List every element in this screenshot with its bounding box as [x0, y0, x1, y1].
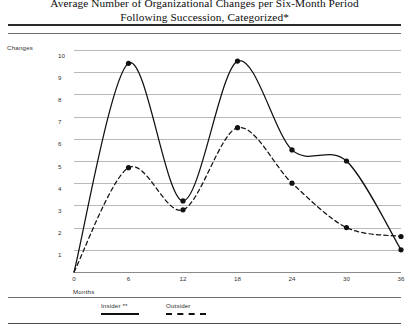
data-point-marker	[180, 198, 185, 203]
y-tick-5: 5	[58, 163, 61, 170]
legend-label-insider: Insider **	[101, 302, 139, 309]
y-tick-7: 7	[58, 118, 61, 125]
x-tick-6: 6	[127, 275, 130, 282]
series-line-dashed	[74, 127, 401, 272]
divider-bottom-thin	[8, 297, 401, 298]
legend-label-outsider: Outsider	[166, 302, 206, 309]
legend-item-insider: Insider **	[101, 302, 139, 315]
divider-bottom-thick	[8, 323, 401, 324]
data-point-marker	[289, 147, 294, 152]
y-tick-6: 6	[58, 140, 61, 147]
data-point-marker	[235, 125, 240, 130]
x-axis-line	[74, 272, 401, 273]
y-tick-4: 4	[58, 185, 61, 192]
y-tick-10: 10	[58, 52, 65, 59]
x-axis-caption: Months	[73, 288, 95, 295]
chart-title-line-2: Following Succession, Categorized*	[0, 11, 409, 25]
y-tick-8: 8	[58, 96, 61, 103]
x-tick-24: 24	[289, 275, 296, 282]
legend-swatch-outsider-dashed-line	[166, 313, 206, 315]
y-tick-9: 9	[58, 74, 61, 81]
data-point-marker	[398, 247, 403, 252]
data-point-marker	[398, 234, 403, 239]
x-tick-12: 12	[180, 275, 187, 282]
divider-top-thin	[8, 33, 401, 34]
x-tick-36: 36	[398, 275, 405, 282]
x-tick-0: 0	[72, 275, 75, 282]
y-tick-3: 3	[58, 207, 61, 214]
series-outsider	[74, 125, 404, 272]
data-point-marker	[126, 61, 131, 66]
chart-series-group	[74, 50, 401, 272]
data-point-marker	[289, 181, 294, 186]
chart-title-line-1: Average Number of Organizational Changes…	[0, 0, 409, 11]
chart-title: Average Number of Organizational Changes…	[0, 0, 409, 24]
data-point-marker	[180, 207, 185, 212]
data-point-marker	[235, 59, 240, 64]
x-tick-30: 30	[343, 275, 350, 282]
y-tick-2: 2	[58, 229, 61, 236]
data-point-marker	[344, 158, 349, 163]
legend-item-outsider: Outsider	[166, 302, 206, 315]
y-axis-caption: Changes	[7, 44, 33, 51]
series-line-solid	[74, 61, 401, 272]
series-insider	[74, 59, 404, 273]
data-point-marker	[344, 225, 349, 230]
legend-swatch-insider-solid-line	[101, 313, 139, 315]
y-tick-1: 1	[58, 251, 61, 258]
chart-plot-area: 12345678910 061218243036 Months	[74, 50, 401, 272]
divider-top-thick	[8, 24, 401, 26]
x-tick-18: 18	[234, 275, 241, 282]
data-point-marker	[126, 165, 131, 170]
